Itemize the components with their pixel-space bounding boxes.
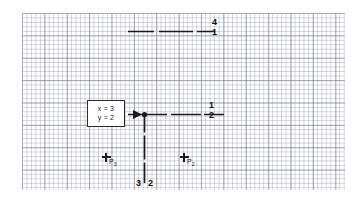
label-top-right-denominator: 1 — [212, 27, 217, 37]
point-label-p3: P3 — [109, 158, 116, 167]
label-top-right: 4 1 — [212, 17, 217, 37]
value-box-line-y: y = 2 — [98, 114, 114, 122]
label-bottom-right: 2 — [148, 178, 153, 188]
point-label-p3-subscript: 3 — [114, 161, 117, 167]
point-label-p2: P2 — [187, 158, 194, 167]
value-box: x = 3 y = 2 — [87, 100, 125, 127]
label-mid-right-numerator: 1 — [209, 100, 214, 110]
diagram-canvas: x = 3 y = 2 4 1 1 2 3 2 P3 P2 — [0, 0, 363, 207]
cross-vertical — [183, 153, 184, 162]
label-top-right-numerator: 4 — [212, 17, 217, 27]
cross-vertical — [105, 153, 106, 162]
point-label-p2-subscript: 2 — [192, 161, 195, 167]
value-box-line-x: x = 3 — [98, 105, 114, 113]
label-bottom-left: 3 — [136, 178, 141, 188]
label-mid-right-denominator: 2 — [209, 110, 214, 120]
label-mid-right: 1 2 — [209, 100, 214, 120]
graph-paper-grid — [22, 13, 345, 190]
